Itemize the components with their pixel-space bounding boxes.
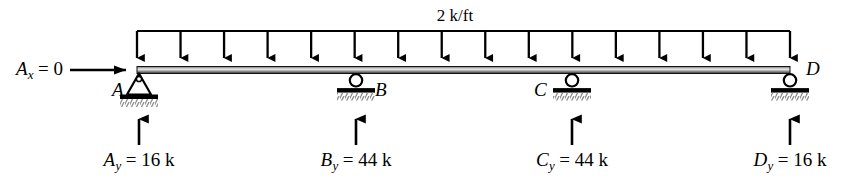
supports-group xyxy=(120,74,809,108)
support-c-roller xyxy=(553,74,591,100)
distributed-load-group xyxy=(137,31,790,58)
ax-reaction-label: Ax = 0 xyxy=(16,58,63,80)
distributed-load-label: 2 k/ft xyxy=(437,6,473,26)
reaction-label-by: By = 44 k xyxy=(321,149,392,171)
reaction-label-cy: Cy = 44 k xyxy=(536,149,608,171)
support-label-b: B xyxy=(375,79,387,101)
beam-diagram-canvas: 2 k/ftAx = 0ABCDAy = 16 kBy = 44 kCy = 4… xyxy=(0,0,863,191)
support-label-d: D xyxy=(806,58,820,80)
beam xyxy=(137,67,790,74)
support-label-a: A xyxy=(112,79,124,101)
reaction-arrows-group xyxy=(139,119,790,145)
support-d-roller xyxy=(771,74,809,100)
reaction-label-ay: Ay = 16 k xyxy=(104,149,175,171)
support-b-roller xyxy=(337,74,375,100)
support-a-pin xyxy=(120,74,158,108)
reaction-label-dy: Dy = 16 k xyxy=(754,149,827,171)
support-label-c: C xyxy=(534,79,547,101)
